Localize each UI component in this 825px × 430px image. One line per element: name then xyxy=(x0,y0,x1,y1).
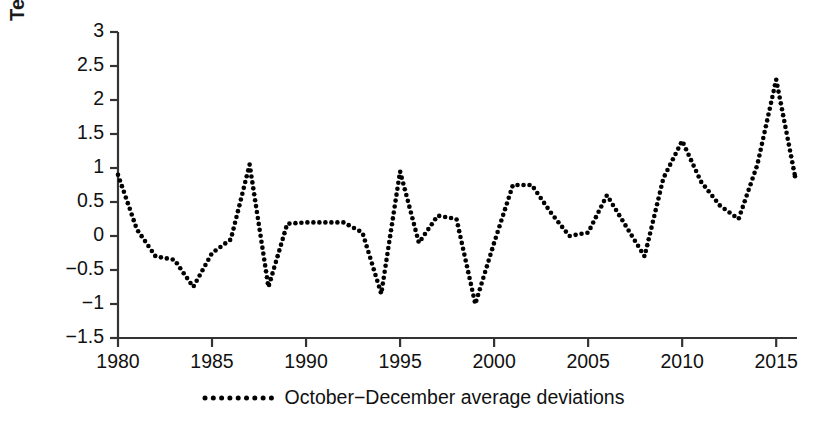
y-tick-label: 1.5 xyxy=(30,121,104,144)
y-tick-label: 2 xyxy=(30,87,104,110)
legend-marker-dotted-line xyxy=(201,391,275,405)
x-tick-label: 1995 xyxy=(360,350,440,373)
data-series-dots xyxy=(116,78,798,304)
chart-figure: Temperature (°F) 32.521.510.50−0.5−1−1.5… xyxy=(0,0,825,430)
x-tick-label: 1990 xyxy=(266,350,346,373)
x-tick-label: 2015 xyxy=(736,350,816,373)
y-tick-label: 3 xyxy=(30,19,104,42)
x-axis-ticks xyxy=(118,338,776,347)
x-tick-label: 2005 xyxy=(548,350,628,373)
chart-legend: October−December average deviations xyxy=(0,386,825,409)
legend-label: October−December average deviations xyxy=(285,386,625,409)
x-tick-label: 2000 xyxy=(454,350,534,373)
y-tick-label: 0 xyxy=(30,223,104,246)
y-axis-ticks xyxy=(110,32,118,338)
y-tick-label: −1.5 xyxy=(30,325,104,348)
y-tick-label: 2.5 xyxy=(30,53,104,76)
x-tick-label: 2010 xyxy=(642,350,722,373)
x-tick-label: 1980 xyxy=(78,350,158,373)
x-tick-label: 1985 xyxy=(172,350,252,373)
axis-lines xyxy=(111,32,797,338)
y-tick-label: −1 xyxy=(30,291,104,314)
y-tick-label: 0.5 xyxy=(30,189,104,212)
y-tick-label: −0.5 xyxy=(30,257,104,280)
data-series-layer xyxy=(116,78,798,304)
y-tick-label: 1 xyxy=(30,155,104,178)
